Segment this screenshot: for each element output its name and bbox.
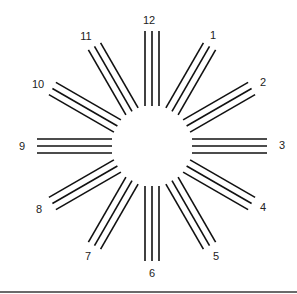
clock-dial: 121234567891011 xyxy=(0,0,297,294)
spoke-line xyxy=(52,89,117,127)
hour-label-10: 10 xyxy=(32,78,44,90)
spoke-9 xyxy=(37,139,112,153)
spoke-line xyxy=(187,166,252,204)
spoke-group xyxy=(37,31,267,261)
hour-label-7: 7 xyxy=(85,250,91,262)
hour-label-3: 3 xyxy=(279,139,285,151)
spoke-1 xyxy=(166,43,216,115)
hour-label-1: 1 xyxy=(210,29,216,41)
hour-label-8: 8 xyxy=(36,203,42,215)
spoke-line xyxy=(52,166,117,204)
spoke-8 xyxy=(49,160,121,210)
spoke-5 xyxy=(166,177,216,249)
hour-label-9: 9 xyxy=(19,140,25,152)
spoke-line xyxy=(166,184,204,249)
spoke-line xyxy=(190,95,255,133)
spoke-7 xyxy=(88,177,138,249)
spoke-3 xyxy=(192,139,267,153)
hour-label-4: 4 xyxy=(260,201,266,213)
spoke-line xyxy=(166,43,204,108)
hour-label-6: 6 xyxy=(149,267,155,279)
hour-label-5: 5 xyxy=(213,250,219,262)
spoke-line xyxy=(49,160,114,198)
spoke-12 xyxy=(145,31,159,106)
spoke-line xyxy=(187,89,252,127)
spoke-line xyxy=(190,160,255,198)
spoke-2 xyxy=(183,82,255,132)
spoke-line xyxy=(49,95,114,133)
bottom-border-line xyxy=(0,291,297,293)
spoke-4 xyxy=(183,160,255,210)
spoke-line xyxy=(101,184,139,249)
spoke-10 xyxy=(49,82,121,132)
hour-label-11: 11 xyxy=(80,30,91,42)
spoke-line xyxy=(172,181,210,246)
spoke-line xyxy=(101,43,139,108)
spoke-line xyxy=(95,181,133,246)
hour-label-2: 2 xyxy=(260,76,266,88)
astigmatism-chart: 121234567891011 xyxy=(0,0,297,294)
spoke-line xyxy=(172,46,210,111)
spoke-line xyxy=(95,46,133,111)
hour-label-12: 12 xyxy=(143,14,155,26)
spoke-11 xyxy=(88,43,138,115)
spoke-6 xyxy=(145,186,159,261)
